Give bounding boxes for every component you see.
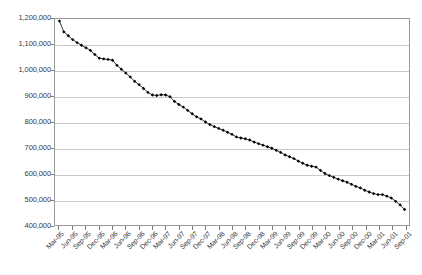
data-point-marker bbox=[354, 185, 357, 188]
data-point-marker bbox=[283, 153, 286, 156]
y-axis-tick-label: 1,100,000 bbox=[1, 40, 51, 48]
data-point-marker bbox=[270, 147, 273, 150]
data-point-marker bbox=[376, 193, 379, 196]
data-point-marker bbox=[297, 159, 300, 162]
data-point-marker bbox=[248, 138, 251, 141]
data-point-marker bbox=[58, 19, 61, 22]
data-point-marker bbox=[345, 181, 348, 184]
series-markers bbox=[58, 19, 407, 211]
data-point-marker bbox=[310, 165, 313, 168]
data-point-marker bbox=[244, 137, 247, 140]
data-point-marker bbox=[363, 189, 366, 192]
y-axis-tick-label: 1,000,000 bbox=[1, 66, 51, 74]
y-axis-tick-label: 500,000 bbox=[1, 196, 51, 204]
y-axis-tick-label: 800,000 bbox=[1, 118, 51, 126]
data-point-marker bbox=[80, 44, 83, 47]
data-point-marker bbox=[226, 131, 229, 134]
data-point-marker bbox=[208, 123, 211, 126]
data-point-marker bbox=[164, 93, 167, 96]
x-axis-tick-labels: Mar-95Jun-95Sep-95Dec-95Mar-96Jun-96Sep-… bbox=[54, 230, 410, 275]
data-point-marker bbox=[292, 157, 295, 160]
y-axis-tick-label: 400,000 bbox=[1, 222, 51, 230]
data-point-marker bbox=[230, 133, 233, 136]
data-point-marker bbox=[337, 177, 340, 180]
data-point-marker bbox=[301, 162, 304, 165]
data-point-marker bbox=[372, 192, 375, 195]
data-point-marker bbox=[151, 93, 154, 96]
series-polyline bbox=[59, 21, 404, 209]
data-point-marker bbox=[160, 93, 163, 96]
y-axis-tick-label: 700,000 bbox=[1, 144, 51, 152]
data-series-line bbox=[55, 19, 409, 225]
data-point-marker bbox=[288, 155, 291, 158]
data-point-marker bbox=[367, 190, 370, 193]
plot-area bbox=[54, 18, 410, 226]
y-axis-tick-label: 1,200,000 bbox=[1, 14, 51, 22]
data-point-marker bbox=[84, 46, 87, 49]
data-point-marker bbox=[385, 194, 388, 197]
data-point-marker bbox=[328, 174, 331, 177]
data-point-marker bbox=[235, 135, 238, 138]
data-point-marker bbox=[332, 176, 335, 179]
data-point-marker bbox=[359, 186, 362, 189]
data-point-marker bbox=[217, 127, 220, 130]
data-point-marker bbox=[279, 151, 282, 154]
data-point-marker bbox=[257, 142, 260, 145]
y-axis-tick-label: 600,000 bbox=[1, 170, 51, 178]
data-point-marker bbox=[221, 129, 224, 132]
data-point-marker bbox=[266, 145, 269, 148]
data-point-marker bbox=[213, 125, 216, 128]
data-point-marker bbox=[155, 94, 158, 97]
data-point-marker bbox=[341, 179, 344, 182]
data-point-marker bbox=[275, 149, 278, 152]
data-point-marker bbox=[306, 164, 309, 167]
chart-container: 400,000500,000600,000700,000800,000900,0… bbox=[0, 0, 422, 275]
data-point-marker bbox=[381, 193, 384, 196]
data-point-marker bbox=[261, 143, 264, 146]
data-point-marker bbox=[106, 58, 109, 61]
y-axis-tick-label: 900,000 bbox=[1, 92, 51, 100]
data-point-marker bbox=[350, 183, 353, 186]
data-point-marker bbox=[239, 136, 242, 139]
y-axis-tick-labels: 400,000500,000600,000700,000800,000900,0… bbox=[0, 18, 51, 226]
data-point-marker bbox=[102, 57, 105, 60]
data-point-marker bbox=[252, 140, 255, 143]
